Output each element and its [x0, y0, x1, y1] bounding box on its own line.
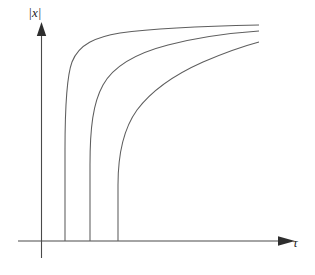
data-curve-3: [118, 42, 259, 241]
figure-container: |x| τ: [0, 0, 315, 275]
x-axis-label: τ: [293, 236, 298, 249]
y-axis-label-bar-right: |: [38, 5, 41, 20]
y-axis-label: |x|: [29, 6, 41, 19]
data-curve-2: [90, 31, 259, 241]
plot-area: [0, 0, 315, 275]
data-curve-1: [65, 25, 259, 241]
y-axis-arrowhead: [37, 22, 46, 36]
